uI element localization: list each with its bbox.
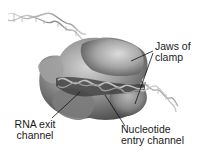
- dna-helix-upstream: [8, 13, 86, 40]
- label-jaws-line2: clamp: [155, 52, 191, 63]
- label-rna-line2: channel: [13, 130, 57, 141]
- label-jaws-of-clamp: Jaws of clamp: [155, 41, 191, 63]
- label-nucleotide-entry-channel: Nucleotide entry channel: [121, 124, 184, 146]
- rna-polymerase-protein: [38, 38, 148, 120]
- label-rna-exit-channel: RNA exit channel: [13, 119, 57, 141]
- label-nuc-line2: entry channel: [121, 135, 184, 146]
- rna-polymerase-diagram: Jaws of clamp RNA exit channel Nucleotid…: [0, 0, 206, 157]
